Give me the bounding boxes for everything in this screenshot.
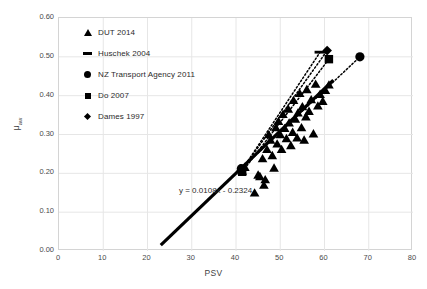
- legend-item[interactable]: Do 2007: [81, 85, 195, 106]
- trendline-nz-trend: [241, 57, 360, 169]
- chart-legend: DUT 2014Huschek 2004NZ Transport Agency …: [81, 22, 195, 127]
- x-axis-tick-label: 40: [220, 254, 250, 262]
- data-point-triangle: [297, 123, 307, 131]
- x-axis-tick-label: 50: [264, 254, 294, 262]
- y-axis-tick-label: 0.20: [8, 168, 54, 176]
- y-axis-title: μaw: [11, 109, 23, 139]
- data-point-diamond: [322, 46, 332, 56]
- data-point-triangle: [309, 129, 319, 137]
- x-axis-tick-label: 30: [176, 254, 206, 262]
- data-point-triangle: [258, 154, 268, 162]
- legend-item[interactable]: DUT 2014: [81, 22, 195, 43]
- data-point-triangle: [302, 85, 312, 93]
- x-axis-title: PSV: [0, 268, 427, 278]
- dash-marker: [81, 52, 94, 55]
- data-point-square: [325, 55, 333, 63]
- square-marker-glyph: [85, 93, 91, 99]
- legend-item-label: DUT 2014: [98, 28, 135, 37]
- plot-area: DUT 2014Huschek 2004NZ Transport Agency …: [58, 17, 412, 250]
- data-point-triangle: [269, 163, 279, 171]
- y-axis-title-symbol: μ: [11, 125, 21, 130]
- dash-marker-glyph: [83, 52, 92, 55]
- triangle-marker-glyph: [84, 29, 92, 36]
- y-axis-tick-label: 0.60: [8, 13, 54, 21]
- y-axis-tick-labels: 0.000.100.200.300.400.500.60: [6, 0, 54, 289]
- scatter-chart: 0.000.100.200.300.400.500.60 μaw DUT 201…: [0, 0, 427, 289]
- x-axis-tick-label: 70: [353, 254, 383, 262]
- triangle-marker: [81, 29, 94, 36]
- x-axis-tick-label: 0: [43, 254, 73, 262]
- legend-item[interactable]: Huschek 2004: [81, 43, 195, 64]
- diamond-marker-glyph: [84, 113, 91, 120]
- circle-marker: [81, 71, 94, 78]
- legend-item[interactable]: Dames 1997: [81, 106, 195, 127]
- x-axis-tick-labels: 01020304050607080: [0, 254, 427, 266]
- diamond-marker: [81, 114, 94, 119]
- legend-item-label: Do 2007: [98, 91, 129, 100]
- y-axis-tick-label: 0.10: [8, 207, 54, 215]
- y-axis-title-subscript: aw: [17, 118, 23, 126]
- legend-item-label: Huschek 2004: [98, 49, 150, 58]
- legend-item-label: NZ Transport Agency 2011: [98, 70, 195, 79]
- legend-item[interactable]: NZ Transport Agency 2011: [81, 64, 195, 85]
- legend-item-label: Dames 1997: [98, 112, 144, 121]
- regression-equation-annotation: y = 0.0108x - 0.2324: [179, 186, 252, 195]
- x-axis-tick-label: 10: [87, 254, 117, 262]
- y-axis-tick-label: 0.40: [8, 91, 54, 99]
- y-axis-tick-label: 0.50: [8, 52, 54, 60]
- circle-marker-glyph: [84, 71, 91, 78]
- x-axis-tick-label: 80: [397, 254, 427, 262]
- y-axis-tick-label: 0.00: [8, 246, 54, 254]
- data-points: [236, 46, 365, 197]
- square-marker: [81, 93, 94, 99]
- data-point-circle: [355, 52, 364, 61]
- x-axis-tick-label: 60: [309, 254, 339, 262]
- x-axis-tick-label: 20: [132, 254, 162, 262]
